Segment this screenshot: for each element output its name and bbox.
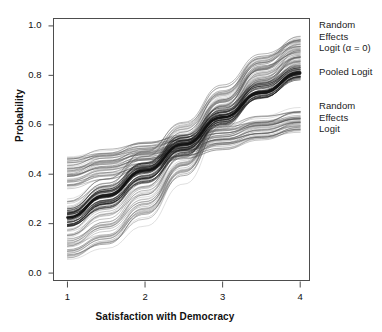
legend-line-1: Pooled Logit [319,66,372,78]
x-tick-label: 4 [287,291,313,302]
y-tick-label: 1.0 [16,19,42,30]
legend-random-effects-logit-alpha0: Random Effects Logit (α = 0) [319,19,371,54]
legend-random-effects-logit: Random Effects Logit [319,100,355,135]
x-tick-label: 1 [54,291,80,302]
legend-line-3: Logit (α = 0) [319,42,371,54]
legend-line-2: Effects [319,112,355,124]
y-tick-label: 0.4 [16,168,42,179]
y-tick-label: 0.8 [16,69,42,80]
y-tick-label: 0.2 [16,217,42,228]
chart-curve [67,73,300,218]
curve-layer [67,36,300,259]
legend-line-2: Effects [319,31,371,43]
legend-line-1: Random [319,19,371,31]
y-tick-label: 0.0 [16,267,42,278]
x-tick-label: 2 [132,291,158,302]
chart-curve [67,36,300,202]
x-axis-title: Satisfaction with Democracy [0,311,330,322]
x-tick-label: 3 [210,291,236,302]
y-tick-label: 0.6 [16,118,42,129]
legend-pooled-logit: Pooled Logit [319,66,372,78]
chart-curve [67,37,300,202]
legend-line-3: Logit [319,123,355,135]
figure-container: Probability Satisfaction with Democracy … [0,0,382,332]
legend-line-1: Random [319,100,355,112]
